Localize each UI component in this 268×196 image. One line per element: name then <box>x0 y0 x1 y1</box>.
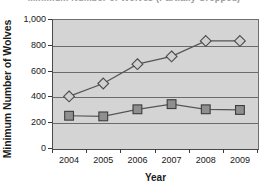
y-tick-mark <box>48 19 52 20</box>
data-point-marker <box>132 59 143 70</box>
data-point-marker <box>200 36 211 47</box>
x-tick-mark <box>257 149 258 153</box>
data-point-marker <box>98 78 109 89</box>
y-tick-mark <box>48 148 52 149</box>
x-tick-mark <box>223 149 224 153</box>
y-tick-mark <box>48 122 52 123</box>
series-line <box>69 41 240 96</box>
data-point-marker <box>235 36 246 47</box>
y-tick-label: 0 <box>41 143 46 153</box>
x-tick-label: 2008 <box>196 155 216 165</box>
data-point-marker <box>167 100 176 109</box>
x-tick-label: 2009 <box>230 155 250 165</box>
x-tick-label: 2006 <box>127 155 147 165</box>
data-point-marker <box>133 105 142 114</box>
series-square <box>65 100 245 121</box>
y-axis-title: Minimum Number of Wolves <box>0 0 15 178</box>
data-point-marker <box>99 112 108 121</box>
y-axis-title-text: Minimum Number of Wolves <box>2 20 14 159</box>
x-tick-label: 2007 <box>162 155 182 165</box>
chart-title-text: Minimum Number of Wolves (Partially Crop… <box>28 0 241 3</box>
data-series-layer <box>52 19 259 150</box>
data-point-marker <box>201 105 210 114</box>
x-tick-label: 2004 <box>59 155 79 165</box>
x-axis-tick-marks <box>52 149 259 154</box>
series-line <box>69 104 240 116</box>
y-tick-label: 200 <box>31 117 46 127</box>
y-tick-label: 800 <box>31 40 46 50</box>
y-tick-label: 600 <box>31 66 46 76</box>
data-point-marker <box>236 106 245 115</box>
x-tick-mark <box>155 149 156 153</box>
x-tick-mark <box>86 149 87 153</box>
y-tick-mark <box>48 71 52 72</box>
y-tick-label: 1,000 <box>23 14 46 24</box>
y-tick-label: 400 <box>31 91 46 101</box>
x-tick-label: 2005 <box>93 155 113 165</box>
data-point-marker <box>65 111 74 120</box>
x-axis-title: Year <box>52 172 259 183</box>
data-point-marker <box>64 91 75 102</box>
x-tick-mark <box>120 149 121 153</box>
y-tick-mark <box>48 96 52 97</box>
x-tick-mark <box>189 149 190 153</box>
y-tick-mark <box>48 45 52 46</box>
x-tick-mark <box>52 149 53 153</box>
series-diamond <box>64 36 246 102</box>
x-axis-tick-labels: 200420052006200720082009 <box>52 155 259 169</box>
data-point-marker <box>166 51 177 62</box>
y-axis-tick-labels: 02004006008001,000 <box>14 0 50 196</box>
wolf-population-line-chart: Minimum Number of Wolves (Partially Crop… <box>0 0 268 196</box>
